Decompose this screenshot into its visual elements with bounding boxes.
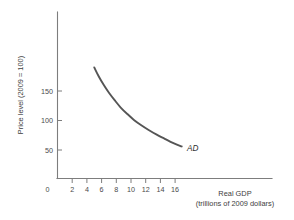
aggregate-demand-chart: 150 100 50 0 2 4 6 8 10 12 14 16 (0, 0, 294, 220)
x-tick-label-6: 6 (100, 185, 104, 194)
x-tick-label-4: 4 (85, 185, 89, 194)
x-tick-labels: 0 2 4 6 8 10 12 14 16 (46, 185, 180, 194)
y-axis-title: Price level (2009 = 100) (16, 56, 25, 134)
x-tick-label-8: 8 (114, 185, 118, 194)
x-tick-label-12: 12 (142, 185, 150, 194)
y-tick-label-50: 50 (45, 146, 53, 155)
x-axis-subtitle: (trillions of 2009 dollars) (196, 199, 274, 208)
y-tick-label-150: 150 (41, 87, 53, 96)
y-tick-labels: 150 100 50 (41, 87, 53, 155)
y-axis-ticks (58, 91, 63, 150)
x-tick-label-14: 14 (156, 185, 164, 194)
x-tick-label-16: 16 (171, 185, 179, 194)
x-tick-label-10: 10 (127, 185, 135, 194)
x-tick-label-0: 0 (46, 185, 50, 194)
y-tick-label-100: 100 (41, 116, 53, 125)
chart-container: 150 100 50 0 2 4 6 8 10 12 14 16 (0, 0, 294, 220)
x-tick-label-2: 2 (70, 185, 74, 194)
x-axis-title: Real GDP (218, 189, 251, 198)
ad-curve (94, 67, 181, 146)
ad-curve-label: AD (186, 144, 198, 153)
x-axis-ticks (72, 179, 175, 184)
